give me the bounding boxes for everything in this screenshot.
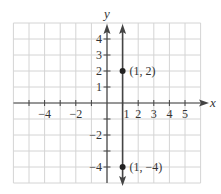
x-tick-label: −4	[38, 107, 51, 121]
x-tick-label: 4	[166, 107, 172, 121]
x-tick-label: 1	[124, 107, 130, 121]
y-tick-label: 2	[96, 64, 102, 78]
vertical-line-x-equals-1	[119, 24, 126, 186]
y-tick-label: −2	[89, 128, 102, 142]
x-tick-label: 2	[135, 107, 141, 121]
data-point	[120, 164, 126, 170]
point-label: (1, −4)	[130, 160, 163, 174]
x-axis-label: x	[209, 95, 216, 110]
x-tick-label: 5	[182, 107, 188, 121]
x-tick-label: −2	[69, 107, 82, 121]
point-label: (1, 2)	[130, 64, 156, 78]
coordinate-plane: (1, 2)(1, −4) −4−2123454321−2−4 x y	[0, 0, 221, 194]
y-tick-label: 1	[96, 80, 102, 94]
y-axis-label: y	[102, 6, 110, 21]
y-tick-label: 4	[96, 32, 102, 46]
y-tick-label: −4	[89, 160, 102, 174]
axes	[13, 24, 209, 183]
data-point	[120, 68, 126, 74]
x-tick-label: 3	[151, 107, 157, 121]
y-tick-label: 3	[96, 48, 102, 62]
